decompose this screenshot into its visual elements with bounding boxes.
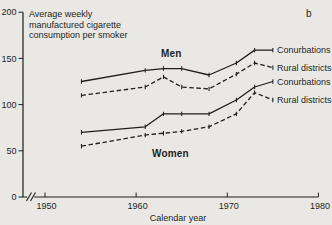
chart-labels: Average weekly manufactured cigarette co… [29,8,312,223]
x-tick-label: 1980 [310,201,330,211]
x-tick-label: 1960 [128,201,148,211]
series-label-women-conurbations: Conurbations [277,77,331,87]
series-label-men-conurbations: Conurbations [277,45,331,55]
chart-title-line-2: manufactured cigarette [29,20,121,30]
series-line-men-rural-districts [82,63,273,95]
chart-title-line-1: Average weekly [29,9,93,19]
chart-figure: 0501001502001950196019701980 Conurbation… [0,0,332,225]
y-tick-label: 150 [1,54,16,64]
x-axis-title: Calendar year [150,213,207,223]
series-label-men-rural-districts: Rural districts [277,63,332,73]
y-tick-label: 0 [11,192,16,202]
chart-title-line-3: consumption per smoker [29,30,128,40]
panel-label: b [306,8,312,19]
series-label-women-rural-districts: Rural districts [277,95,332,105]
data-series: ConurbationsRural districtsConurbationsR… [81,45,332,148]
line-chart: 0501001502001950196019701980 Conurbation… [0,0,332,225]
y-tick-label: 50 [6,146,16,156]
series-group-label-men: Men [161,48,182,59]
x-tick-label: 1970 [219,201,239,211]
y-tick-label: 200 [1,7,16,17]
y-tick-label: 100 [1,100,16,110]
series-line-women-rural-districts [82,93,273,147]
x-tick-label: 1950 [36,201,56,211]
series-group-label-women: Women [152,148,189,159]
series-line-women-conurbations [82,82,273,133]
